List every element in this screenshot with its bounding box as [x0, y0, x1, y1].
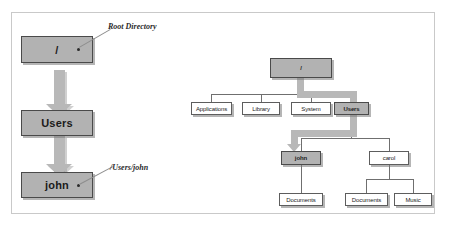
tree-node-library-label: Library	[252, 106, 270, 112]
tree-node-john-documents[interactable]: Documents	[279, 193, 323, 206]
tree-node-carol-documents-label: Documents	[352, 197, 381, 203]
edge-drop-carol	[389, 138, 390, 151]
tree-node-john[interactable]: john	[281, 151, 321, 165]
tree-node-root-label: /	[300, 65, 302, 71]
tree-node-carol-music-label: Music	[405, 197, 420, 203]
figure-canvas: / Users john Root Directory /Users/john	[0, 0, 456, 228]
edge-drop-john	[301, 138, 302, 151]
tree-node-john-documents-label: Documents	[286, 197, 315, 203]
tree-node-users[interactable]: Users	[334, 102, 369, 115]
tree-node-system[interactable]: System	[291, 102, 331, 115]
tree-node-carol-music[interactable]: Music	[394, 193, 432, 206]
tree-node-users-label: Users	[343, 106, 359, 112]
edge-drop-applications	[211, 94, 212, 102]
edge-john-to-documents	[301, 165, 302, 193]
edge-level2-bus	[301, 138, 389, 139]
tree-node-applications[interactable]: Applications	[191, 102, 232, 115]
filesystem-tree-panel: / Applications Library System Users john…	[0, 0, 456, 228]
edge-drop-carol-music	[413, 179, 414, 193]
highlight-root-to-users-horizontal	[297, 91, 357, 98]
tree-node-applications-label: Applications	[196, 106, 227, 112]
edge-drop-library	[261, 94, 262, 102]
edge-level3-bus	[366, 179, 413, 180]
tree-node-root[interactable]: /	[270, 58, 332, 78]
edge-drop-carol-documents	[366, 179, 367, 193]
tree-node-system-label: System	[301, 106, 320, 112]
tree-node-carol[interactable]: carol	[369, 151, 409, 165]
tree-node-john-label: john	[295, 155, 307, 161]
highlight-users-to-john-horizontal	[291, 130, 357, 137]
tree-node-carol-label: carol	[383, 155, 396, 161]
edge-carol-stem	[389, 165, 390, 179]
tree-node-library[interactable]: Library	[242, 102, 280, 115]
tree-node-carol-documents[interactable]: Documents	[345, 193, 388, 206]
